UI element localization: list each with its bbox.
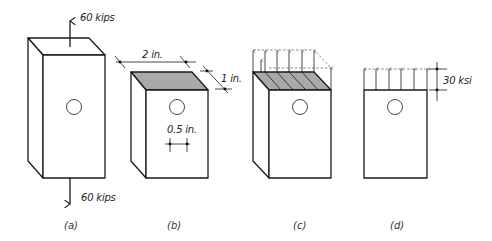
hole	[67, 100, 82, 115]
bar-side-face	[131, 72, 146, 178]
panel-d: 30 ksi (d)	[364, 62, 472, 231]
top-force-label: 60 kips	[80, 12, 115, 23]
bottom-force-label: 60 kips	[81, 192, 116, 203]
stress-diagram: 60 kips 60 kips (a) 2 in. 1 in.	[0, 0, 492, 241]
hole	[170, 100, 185, 115]
bar-side-face	[253, 72, 269, 178]
panel-c: (c)	[253, 50, 331, 231]
bar-front-face	[43, 55, 105, 178]
stress-label: 30 ksi	[443, 75, 472, 86]
hole	[293, 100, 308, 115]
tension-bar-a	[28, 38, 105, 178]
depth-label: 1 in.	[221, 73, 242, 84]
caption-c: (c)	[293, 220, 306, 231]
panel-a: 60 kips 60 kips (a)	[28, 12, 116, 231]
caption-b: (b)	[167, 220, 181, 231]
caption-a: (a)	[64, 220, 78, 231]
width-label: 2 in.	[142, 49, 163, 60]
hole	[388, 100, 403, 115]
stress-arrows-2d	[364, 69, 427, 90]
stress-dimension: 30 ksi	[429, 62, 472, 101]
stress-arrows-back	[253, 51, 314, 72]
panel-b: 2 in. 1 in. 0.5 in. (b)	[115, 49, 242, 231]
caption-d: (d)	[390, 220, 404, 231]
bar-side-face	[28, 38, 43, 178]
width-dimension: 2 in.	[115, 49, 196, 68]
hole-diameter-label: 0.5 in.	[167, 124, 197, 135]
cross-section-bar-c	[253, 72, 331, 178]
